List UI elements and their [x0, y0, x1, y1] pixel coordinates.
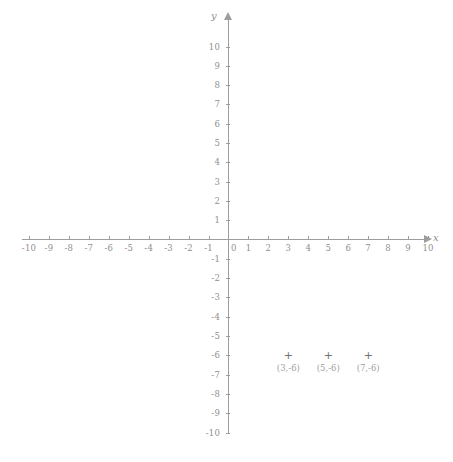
y-axis-tick-label: -2	[194, 273, 220, 283]
y-axis-tick	[226, 220, 230, 221]
x-axis-tick	[69, 236, 70, 240]
y-axis-tick	[226, 143, 230, 144]
y-axis-tick-label: 10	[194, 42, 220, 52]
data-point-marker[interactable]: +	[324, 351, 333, 360]
y-axis-tick-label: -8	[194, 389, 220, 399]
x-axis-line	[22, 239, 428, 240]
x-axis-tick	[29, 236, 30, 240]
x-axis-tick	[388, 236, 389, 240]
x-axis-tick	[428, 236, 429, 240]
y-axis-tick	[226, 394, 230, 395]
y-axis-tick-label: 4	[194, 157, 220, 167]
data-point-marker[interactable]: +	[364, 351, 373, 360]
x-axis-tick	[248, 236, 249, 240]
y-axis-tick	[226, 278, 230, 279]
y-axis-tick	[226, 85, 230, 86]
y-axis-tick	[226, 259, 230, 260]
x-axis-tick	[89, 236, 90, 240]
data-point-marker[interactable]: +	[284, 351, 293, 360]
y-axis-tick-label: 8	[194, 80, 220, 90]
y-axis-tick-label: -6	[194, 350, 220, 360]
y-axis-tick	[226, 433, 230, 434]
y-axis-tick-label: 9	[194, 61, 220, 71]
y-axis-arrow-icon	[224, 12, 232, 20]
y-axis-tick	[226, 413, 230, 414]
x-axis-tick	[328, 236, 329, 240]
y-axis-tick-label: 6	[194, 119, 220, 129]
y-axis-tick-label: -4	[194, 312, 220, 322]
y-axis-tick-label: -3	[194, 292, 220, 302]
x-axis-tick-label: 10	[416, 243, 440, 253]
x-axis-tick-label: -1	[197, 243, 221, 253]
y-axis-tick-label: 5	[194, 138, 220, 148]
y-axis-tick	[226, 336, 230, 337]
x-axis-tick	[149, 236, 150, 240]
x-axis-label: x	[433, 232, 439, 243]
x-axis-tick	[209, 236, 210, 240]
y-axis-tick	[226, 47, 230, 48]
y-axis-tick	[226, 297, 230, 298]
data-point-label: (7,-6)	[345, 363, 391, 373]
x-axis-tick	[308, 236, 309, 240]
y-axis-line	[228, 18, 229, 434]
x-axis-tick	[189, 236, 190, 240]
y-axis-tick-label: 3	[194, 177, 220, 187]
y-axis-label: y	[211, 10, 217, 21]
y-axis-tick-label: 1	[194, 215, 220, 225]
y-axis-tick-label: -5	[194, 331, 220, 341]
coordinate-plane-figure: x y 0 -10-9-8-7-6-5-4-3-2-112345678910 -…	[0, 0, 453, 462]
y-axis-tick	[226, 162, 230, 163]
y-axis-tick	[226, 375, 230, 376]
x-axis-tick	[288, 236, 289, 240]
x-axis-tick	[49, 236, 50, 240]
x-axis-tick	[109, 236, 110, 240]
y-axis-tick	[226, 182, 230, 183]
y-axis-tick-label: -9	[194, 408, 220, 418]
x-axis-tick	[368, 236, 369, 240]
y-axis-tick-label: -7	[194, 370, 220, 380]
y-axis-tick-label: -1	[194, 254, 220, 264]
y-axis-tick-label: 2	[194, 196, 220, 206]
y-axis-tick-label: 7	[194, 99, 220, 109]
y-axis-tick	[226, 124, 230, 125]
x-axis-tick	[268, 236, 269, 240]
y-axis-tick-label: -10	[194, 428, 220, 438]
y-axis-tick	[226, 355, 230, 356]
x-axis-tick	[408, 236, 409, 240]
y-axis-tick	[226, 317, 230, 318]
x-axis-tick	[129, 236, 130, 240]
y-axis-tick	[226, 104, 230, 105]
y-axis-tick	[226, 201, 230, 202]
y-axis-tick	[226, 66, 230, 67]
x-axis-tick	[348, 236, 349, 240]
x-axis-tick	[169, 236, 170, 240]
